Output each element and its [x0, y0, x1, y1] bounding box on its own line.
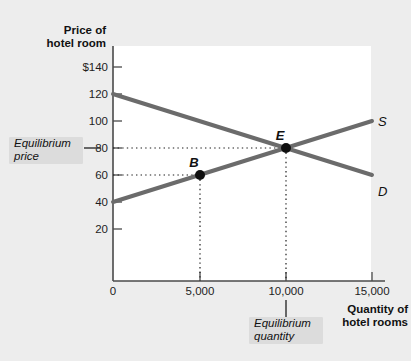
- y-tick-label-140: $140: [82, 61, 108, 73]
- y-tick-label-120: 120: [89, 88, 108, 100]
- y-axis-title-line1: Price of: [64, 24, 106, 36]
- equilibrium-quantity-label-line1: Equilibrium: [254, 317, 311, 329]
- equilibrium-price-label-line1: Equilibrium: [14, 137, 71, 149]
- y-axis-title-line2: hotel room: [47, 37, 106, 49]
- equilibrium-quantity-label-line2: quantity: [254, 330, 296, 342]
- chart-canvas: Price of hotel room $140 120 100 80 60 4…: [0, 0, 411, 361]
- y-tick-label-40: 40: [95, 196, 108, 208]
- supply-curve-label: S: [378, 114, 387, 129]
- x-axis-title-line2: hotel rooms: [342, 316, 408, 328]
- demand-curve-label: D: [378, 184, 387, 199]
- x-tick-label-0: 0: [110, 285, 116, 297]
- point-label-e: E: [276, 128, 285, 143]
- y-tick-label-20: 20: [95, 223, 108, 235]
- x-tick-label-5000: 5,000: [186, 285, 215, 297]
- data-point-e: [281, 143, 291, 153]
- y-tick-label-60: 60: [95, 169, 108, 181]
- data-point-b: [195, 170, 205, 180]
- point-label-b: B: [189, 155, 198, 170]
- equilibrium-price-label-line2: price: [13, 150, 39, 162]
- x-tick-label-10000: 10,000: [268, 285, 303, 297]
- x-axis-title-line1: Quantity of: [347, 303, 408, 315]
- x-tick-label-15000: 15,000: [354, 285, 389, 297]
- supply-demand-chart: Price of hotel room $140 120 100 80 60 4…: [0, 0, 411, 361]
- y-tick-label-100: 100: [89, 115, 108, 127]
